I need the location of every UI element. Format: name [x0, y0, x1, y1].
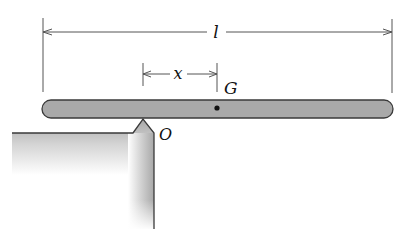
center-of-mass-point: [214, 105, 219, 110]
pivoted-bar-diagram: l x G O: [0, 0, 415, 247]
center-of-mass-label: G: [224, 78, 238, 98]
length-label: l: [213, 22, 218, 42]
fixed-support: [12, 119, 154, 230]
pivot-label: O: [159, 125, 172, 144]
offset-label: x: [173, 64, 182, 83]
